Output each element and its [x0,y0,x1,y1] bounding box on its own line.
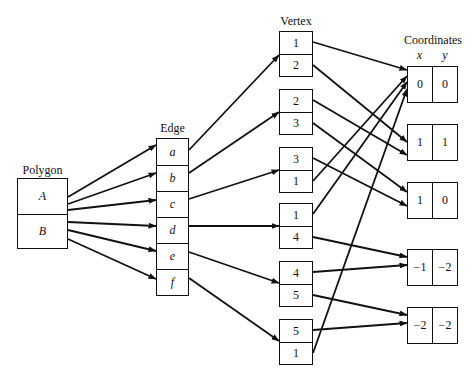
coordinate-row: 1 0 [407,182,458,219]
vertex-cell: 1 [280,32,312,54]
coordinate-row: −2 −2 [407,307,458,344]
polygon-label: Polygon [17,163,68,178]
edge-cell-d: d [157,217,188,243]
polygon-cell-B: B [18,214,67,248]
coordinates-label: Coordinates [397,33,469,48]
polygon-table: A B [17,178,68,249]
vertex-pair-3: 3 1 [279,147,313,193]
coordinate-row: 1 1 [407,124,458,161]
edge-cell-b: b [157,165,188,191]
vertex-pair-5: 4 5 [279,261,313,307]
arrow-B-e [68,230,156,251]
vertex-cell: 3 [280,148,312,170]
edge-cell-e: e [157,243,188,269]
vertex-pair-4: 1 4 [279,203,313,249]
arrow-a-v12 [189,55,279,150]
y-header: y [432,48,458,63]
x-value: 1 [408,125,432,160]
vertex-cell: 4 [280,262,312,284]
y-value: 0 [432,67,457,102]
vertex-pair-2: 2 3 [279,89,313,135]
y-value: −2 [432,308,457,343]
y-value: 0 [432,183,457,218]
arrow-v1c-c00 [313,82,407,214]
arrow-v1-c00 [313,42,407,70]
vertex-pair-1: 1 2 [279,31,313,77]
x-value: −2 [408,308,432,343]
y-value: 1 [432,125,457,160]
arrow-A-c [68,200,156,210]
arrow-v4b-cm1m2 [313,265,407,272]
edge-cell-a: a [157,139,188,165]
polygon-mesh-diagram: Polygon A B Edge a b c d e f Vertex 1 2 … [0,0,472,384]
vertex-cell: 3 [280,112,312,134]
vertex-label: Vertex [279,14,313,29]
edge-table: a b c d e f [156,138,189,296]
coordinate-row: −1 −2 [407,249,458,286]
arrow-e-v45 [189,252,279,283]
x-value: −1 [408,250,432,285]
polygon-cell-A: A [18,179,67,214]
arrow-v4-cm1m2 [313,237,407,257]
vertex-cell: 5 [280,284,312,306]
arrow-c-v31 [189,170,279,199]
x-header: x [407,48,432,63]
y-value: −2 [432,250,457,285]
x-value: 0 [408,67,432,102]
vertex-pair-6: 5 1 [279,319,313,365]
arrow-v5b-cm2m2 [313,323,407,330]
vertex-cell: 5 [280,320,312,342]
vertex-cell: 2 [280,90,312,112]
vertex-cell: 1 [280,342,312,364]
edge-cell-f: f [157,269,188,295]
coordinate-row: 0 0 [407,66,458,103]
edge-label: Edge [156,121,189,136]
edge-cell-c: c [157,191,188,217]
vertex-cell: 1 [280,170,312,192]
vertex-cell: 4 [280,226,312,248]
arrow-f-v51 [189,278,279,341]
x-value: 1 [408,183,432,218]
arrow-B-d [68,222,156,226]
arrow-b-v23 [189,112,279,173]
connector-arrows [0,0,472,384]
arrow-B-f [68,239,156,279]
vertex-cell: 2 [280,54,312,76]
vertex-cell: 1 [280,204,312,226]
